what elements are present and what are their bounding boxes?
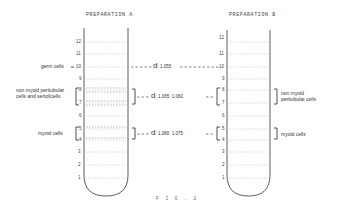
- label-germ-cells-a: germ cells: [41, 64, 64, 69]
- connectors: [131, 67, 219, 134]
- brackets-a-left: [71, 67, 79, 140]
- density-nonmyoid: d: 1.065 1.060: [151, 91, 183, 100]
- tube-b: [227, 30, 270, 196]
- label-myoid-cells-a: myoid cells: [38, 131, 63, 136]
- brackets-a-right: [132, 89, 135, 139]
- brackets-b-right: [274, 89, 277, 139]
- label-nonmyoid-b-line2: peritubular cells: [281, 97, 316, 102]
- preparation-b-title: PREPARATION B: [229, 12, 276, 18]
- gradient-lines-a: [86, 42, 126, 178]
- label-myoid-cells-b: myoid cells: [281, 132, 306, 137]
- preparation-a-title: PREPARATION A: [86, 12, 133, 18]
- cell-bands-a: [86, 88, 126, 138]
- figure-caption: F I G . 2: [156, 196, 198, 201]
- density-germ: d: 1.055: [153, 61, 171, 70]
- tube-a: [84, 28, 128, 196]
- gradient-lines-b: [229, 42, 268, 178]
- brackets-b-left: [217, 88, 220, 140]
- density-gradient-diagram: [0, 0, 343, 214]
- density-myoid: d: 1.080 1.075: [151, 128, 183, 137]
- label-nonmyoid-a-line2: cells and sertolicells: [16, 94, 60, 99]
